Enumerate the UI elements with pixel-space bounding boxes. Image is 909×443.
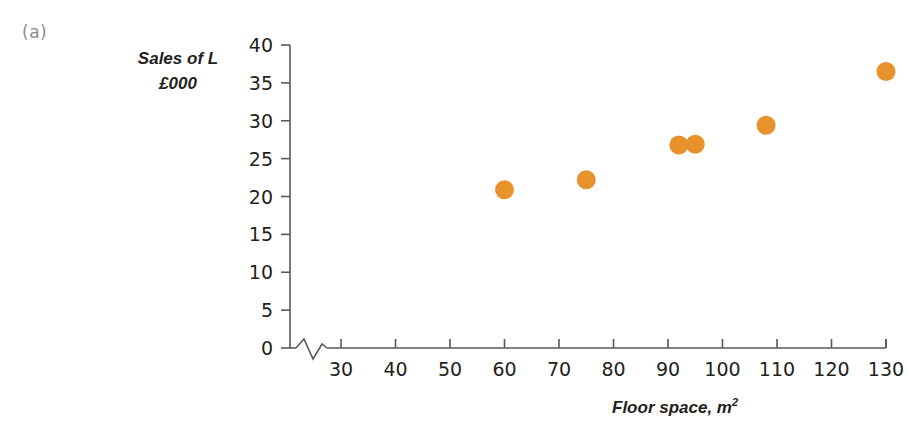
x-tick-label: 60 (492, 358, 516, 380)
data-markers-group (495, 62, 896, 199)
y-tick-label: 0 (233, 337, 273, 359)
x-tick-label: 50 (438, 358, 462, 380)
figure-panel: (a) Sales of L £000 Floor space, m2 0510… (0, 0, 909, 443)
data-point-marker (669, 135, 688, 154)
data-point-marker (495, 180, 514, 199)
y-tick-label: 25 (233, 148, 273, 170)
x-tick-label: 70 (547, 358, 571, 380)
x-tick-label: 40 (383, 358, 407, 380)
data-point-marker (686, 135, 705, 154)
x-tick-label: 120 (813, 358, 849, 380)
x-tick-label: 30 (329, 358, 353, 380)
data-point-marker (877, 62, 896, 81)
axes-group (290, 45, 886, 348)
x-tick-label: 80 (601, 358, 625, 380)
x-tick-label: 90 (656, 358, 680, 380)
x-tick-label: 110 (759, 358, 795, 380)
x-tick-label: 100 (704, 358, 740, 380)
y-tick-label: 10 (233, 261, 273, 283)
x-tick-label: 130 (868, 358, 904, 380)
y-tick-label: 5 (233, 299, 273, 321)
y-tick-label: 20 (233, 186, 273, 208)
y-tick-label: 40 (233, 34, 273, 56)
y-tick-label: 15 (233, 223, 273, 245)
y-tick-label: 30 (233, 110, 273, 132)
x-axis-break-symbol (296, 339, 327, 359)
y-tick-label: 35 (233, 72, 273, 94)
data-point-marker (577, 170, 596, 189)
axis-ticks-group (281, 45, 886, 348)
data-point-marker (757, 116, 776, 135)
